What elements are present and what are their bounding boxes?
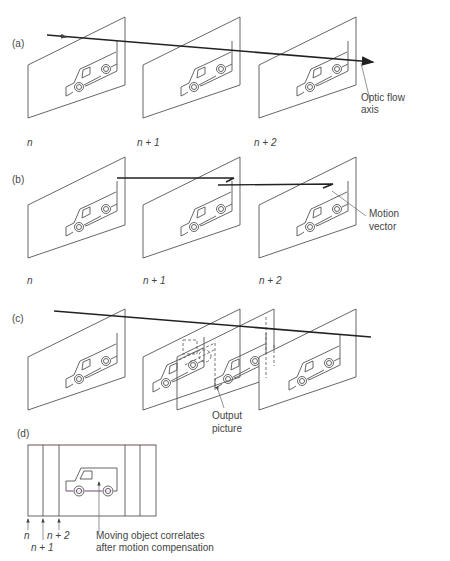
frame-label-n: n xyxy=(27,275,33,286)
frame-n-plus-2 xyxy=(259,157,356,258)
frame-n-plus-1 xyxy=(143,309,240,410)
panel-c-label: (c) xyxy=(12,313,24,324)
panel-a: (a) Optic flow axis n n + 1 n + 2 xyxy=(12,17,406,148)
output-picture-label-1: Output xyxy=(212,410,242,421)
panel-d: (d) n n + 1 n + 2 Moving object correlat… xyxy=(17,428,214,553)
motion-compensation-diagram: (a) Optic flow axis n n + 1 n + 2 (b) xyxy=(0,0,450,561)
frame-label-n1: n + 1 xyxy=(137,137,160,148)
motion-vector-label-1: Motion xyxy=(369,208,399,219)
frame-n xyxy=(28,309,125,410)
output-picture-label-2: picture xyxy=(212,423,242,434)
frame-label-n2: n + 2 xyxy=(259,275,282,286)
correlation-label-2: after motion compensation xyxy=(96,542,214,553)
frame-label-n2: n + 2 xyxy=(47,530,70,541)
motion-vector-label-2: vector xyxy=(369,221,397,232)
optic-flow-label-2: axis xyxy=(361,104,379,115)
panel-b: (b) Motion vector n n + 1 n + 2 xyxy=(12,157,399,286)
panel-a-label: (a) xyxy=(12,38,24,49)
frame-n-plus-1 xyxy=(143,17,240,118)
frame-label-n1: n + 1 xyxy=(31,542,54,553)
annotation-pointer xyxy=(218,390,224,408)
panel-c: (c) Output picture xyxy=(12,309,371,434)
stacked-frames xyxy=(28,445,156,516)
optic-flow-label-1: Optic flow xyxy=(361,92,406,103)
panel-d-label: (d) xyxy=(17,428,29,439)
correlation-label-1: Moving object correlates xyxy=(96,530,204,541)
frame-label-n: n xyxy=(24,530,30,541)
frame-n xyxy=(28,17,125,118)
frame-n xyxy=(28,157,125,258)
frame-label-n: n xyxy=(27,137,33,148)
frame-n-plus-1 xyxy=(143,157,240,258)
frame-label-n2: n + 2 xyxy=(254,137,277,148)
frame-label-n1: n + 1 xyxy=(143,275,166,286)
panel-b-label: (b) xyxy=(12,174,24,185)
frame-n-plus-2 xyxy=(259,17,356,118)
frame-n-plus-2 xyxy=(259,309,356,410)
